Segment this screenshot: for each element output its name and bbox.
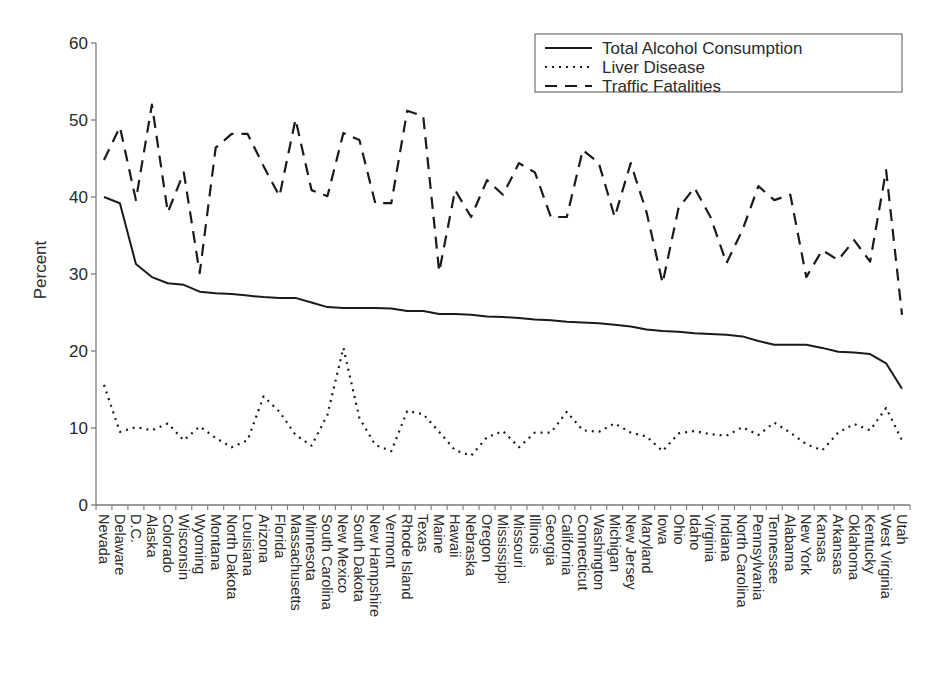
x-category-label: Oregon — [479, 514, 495, 562]
series-total-alcohol-consumption — [104, 197, 902, 389]
x-category-label: Wisconsin — [176, 514, 192, 580]
x-category-label: Virginia — [702, 514, 718, 563]
x-category-label: Louisiana — [240, 514, 256, 577]
x-category-label: Massachusetts — [288, 514, 304, 611]
x-category-label: Indiana — [718, 514, 734, 563]
x-category-label: North Dakota — [224, 514, 240, 600]
y-tick-label: 40 — [69, 188, 88, 207]
x-category-label: Nebraska — [463, 514, 479, 577]
x-category-label: Kentucky — [862, 514, 878, 574]
x-category-label: Arkansas — [830, 514, 846, 574]
legend-label: Traffic Fatalities — [602, 77, 721, 96]
x-category-label: Oklahoma — [846, 514, 862, 581]
x-category-label: Alaska — [144, 514, 160, 558]
x-category-label: North Carolina — [734, 514, 750, 608]
x-category-label: Minnesota — [303, 514, 319, 582]
x-category-label: Delaware — [112, 514, 128, 575]
y-tick-label: 50 — [69, 111, 88, 130]
x-category-label: D.C. — [128, 514, 144, 543]
x-category-label: Georgia — [543, 514, 559, 567]
x-category-label: California — [559, 514, 575, 576]
line-chart: 0102030405060 NevadaDelawareD.C.AlaskaCo… — [0, 0, 945, 676]
y-axis: 0102030405060 — [69, 34, 96, 515]
x-category-label: Alabama — [782, 514, 798, 572]
legend: Total Alcohol Consumption Liver Disease … — [535, 34, 902, 96]
x-category-label: New Mexico — [335, 514, 351, 593]
y-tick-label: 20 — [69, 342, 88, 361]
x-category-label: New Hampshire — [367, 514, 383, 617]
x-category-label: Illinois — [527, 514, 543, 554]
series-layer — [104, 105, 902, 456]
x-category-label: Maryland — [639, 514, 655, 574]
x-category-label: Maine — [431, 514, 447, 554]
x-category-label: South Dakota — [351, 514, 367, 603]
y-axis-title: Percent — [31, 240, 50, 299]
x-category-label: Missouri — [511, 514, 527, 568]
y-tick-label: 30 — [69, 265, 88, 284]
x-category-label: Vermont — [383, 514, 399, 568]
y-tick-label: 10 — [69, 419, 88, 438]
x-category-label: Texas — [415, 514, 431, 552]
x-category-label: Rhode Island — [399, 514, 415, 599]
x-category-label: Ohio — [671, 514, 687, 545]
series-traffic-fatalities — [104, 105, 902, 315]
x-category-label: Iowa — [655, 514, 671, 546]
x-category-label: Nevada — [96, 514, 112, 565]
legend-label: Total Alcohol Consumption — [602, 39, 802, 58]
x-category-label: Utah — [894, 514, 910, 545]
x-category-label: Hawaii — [447, 514, 463, 558]
x-category-label: Arizona — [256, 514, 272, 564]
x-category-label: Idaho — [687, 514, 703, 550]
x-category-label: New York — [798, 514, 814, 576]
x-category-label: Washington — [591, 514, 607, 590]
x-category-label: Montana — [208, 514, 224, 571]
x-category-label: New Jersey — [623, 514, 639, 590]
legend-label: Liver Disease — [602, 58, 705, 77]
x-axis: NevadaDelawareD.C.AlaskaColoradoWisconsi… — [96, 505, 910, 617]
x-category-label: Kansas — [814, 514, 830, 562]
y-tick-label: 0 — [79, 496, 88, 515]
x-category-label: Mississippi — [495, 514, 511, 584]
x-category-label: Florida — [272, 514, 288, 559]
x-category-label: South Carolina — [319, 514, 335, 611]
x-category-label: Michigan — [607, 514, 623, 572]
x-category-label: Connecticut — [575, 514, 591, 591]
x-category-label: Wyoming — [192, 514, 208, 574]
x-category-label: Tennessee — [766, 514, 782, 584]
series-liver-disease — [104, 348, 902, 456]
x-category-label: West Virginia — [878, 514, 894, 600]
y-tick-label: 60 — [69, 34, 88, 53]
x-category-label: Colorado — [160, 514, 176, 573]
x-category-label: Pennsylvania — [750, 514, 766, 601]
